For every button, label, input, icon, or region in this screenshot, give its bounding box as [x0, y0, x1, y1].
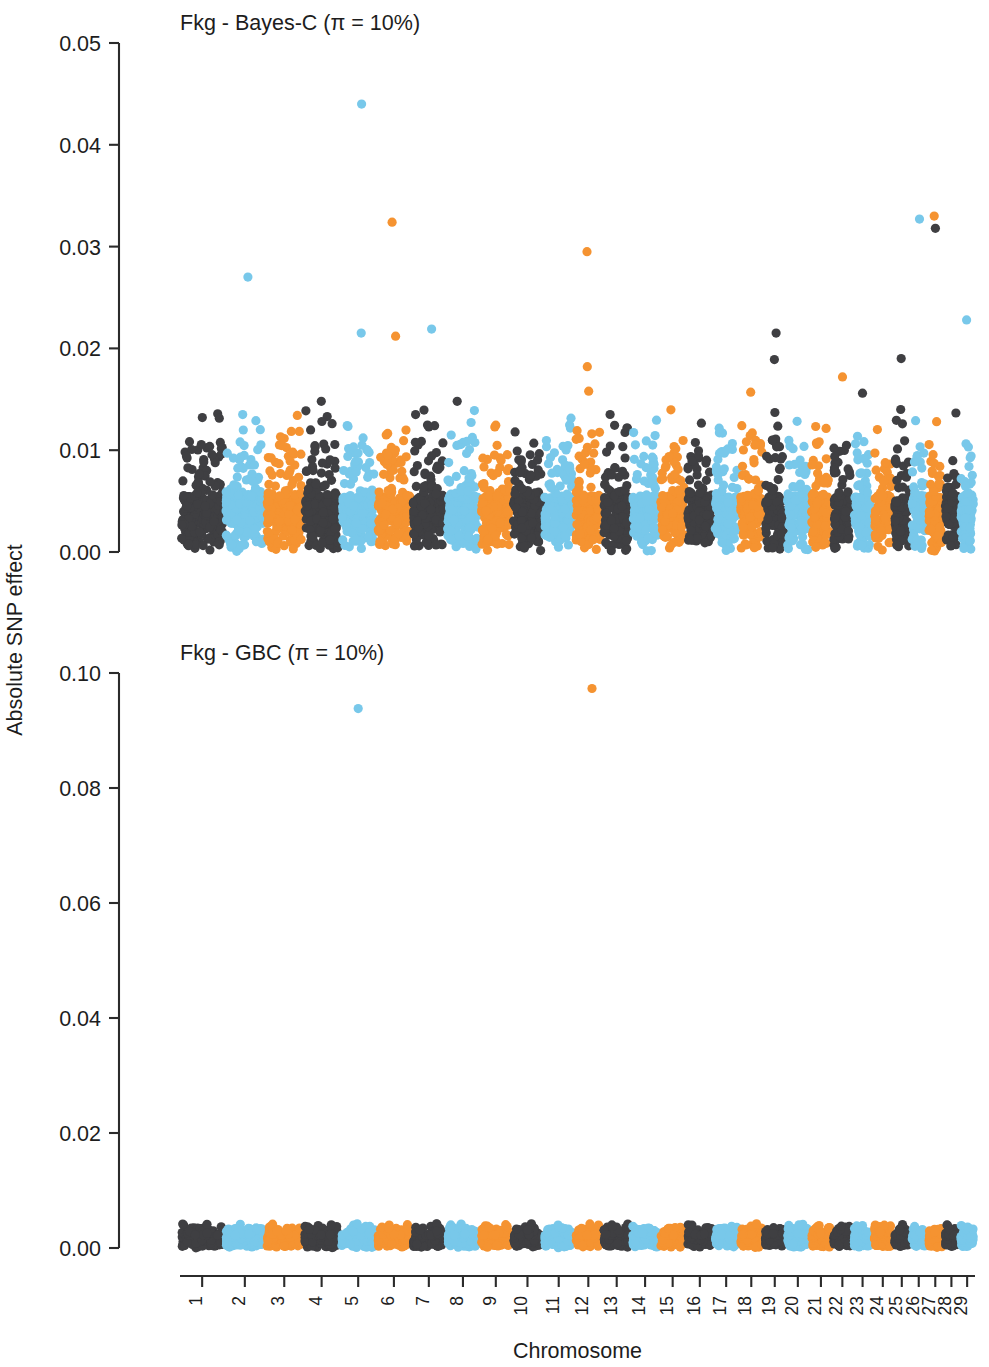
- y-tick-label-gbc-4: 0.08: [59, 777, 101, 801]
- y-tick-label-gbc-0: 0.00: [59, 1237, 101, 1261]
- outlier-point: [243, 273, 252, 282]
- x-tick-label-chr-16: 16: [684, 1296, 704, 1315]
- x-tick-label-chr-18: 18: [735, 1296, 755, 1315]
- panel-title-bayesc: Fkg - Bayes-C (π = 10%): [180, 11, 420, 35]
- outlier-point: [931, 224, 940, 233]
- y-tick-label-bayesc-0: 0.00: [59, 541, 101, 565]
- outlier-point: [353, 1219, 362, 1228]
- x-tick-label-chr-3: 3: [268, 1296, 288, 1306]
- outlier-point: [587, 684, 596, 693]
- y-tick-label-gbc-3: 0.06: [59, 892, 101, 916]
- x-tick-label-chr-15: 15: [657, 1296, 677, 1315]
- outlier-point: [770, 408, 779, 417]
- outlier-point: [427, 325, 436, 334]
- figure-root: Fkg - Bayes-C (π = 10%)0.000.010.020.030…: [0, 0, 989, 1367]
- outlier-point: [772, 329, 781, 338]
- manhattan-figure: Fkg - Bayes-C (π = 10%)0.000.010.020.030…: [0, 0, 989, 1367]
- outlier-point: [357, 100, 366, 109]
- outlier-point: [838, 372, 847, 381]
- y-tick-label-bayesc-5: 0.05: [59, 32, 101, 56]
- outlier-point: [238, 410, 247, 419]
- outlier-point: [357, 329, 366, 338]
- outlier-point: [582, 247, 591, 256]
- points-bayesc: [177, 100, 978, 556]
- points-gbc: [178, 684, 978, 1253]
- y-tick-label-gbc-2: 0.04: [59, 1007, 101, 1031]
- outlier-point: [198, 413, 207, 422]
- x-tick-label-chr-17: 17: [710, 1296, 730, 1315]
- x-tick-label-chr-22: 22: [826, 1296, 846, 1315]
- x-tick-label-chr-14: 14: [629, 1296, 649, 1316]
- outlier-point: [962, 315, 971, 324]
- x-tick-label-chr-24: 24: [867, 1296, 887, 1316]
- y-axis-title: Absolute SNP effect: [3, 544, 27, 736]
- x-tick-label-chr-4: 4: [306, 1296, 326, 1306]
- outlier-point: [858, 389, 867, 398]
- y-tick-label-bayesc-3: 0.03: [59, 236, 101, 260]
- x-tick-label-chr-11: 11: [543, 1296, 563, 1314]
- outlier-point: [746, 388, 755, 397]
- outlier-point: [391, 332, 400, 341]
- outlier-point: [453, 397, 462, 406]
- x-axis-title: Chromosome: [513, 1339, 642, 1363]
- outlier-point: [930, 212, 939, 221]
- outlier-point: [554, 1220, 563, 1229]
- y-tick-label-gbc-5: 0.10: [59, 662, 101, 686]
- y-tick-label-bayesc-2: 0.02: [59, 337, 101, 361]
- x-tick-label-chr-7: 7: [413, 1296, 433, 1306]
- outlier-point: [584, 387, 593, 396]
- y-tick-label-gbc-1: 0.02: [59, 1122, 101, 1146]
- x-tick-label-chr-5: 5: [342, 1296, 362, 1306]
- x-tick-label-chr-10: 10: [511, 1296, 531, 1316]
- x-tick-label-chr-21: 21: [805, 1296, 825, 1315]
- y-tick-label-bayesc-4: 0.04: [59, 134, 101, 158]
- x-tick-label-chr-29: 29: [951, 1296, 971, 1315]
- outlier-point: [915, 215, 924, 224]
- x-tick-label-chr-23: 23: [847, 1296, 867, 1315]
- outlier-point: [897, 354, 906, 363]
- x-tick-label-chr-20: 20: [782, 1296, 802, 1316]
- outlier-point: [388, 218, 397, 227]
- x-tick-label-chr-2: 2: [229, 1296, 249, 1306]
- outlier-point: [932, 417, 941, 426]
- outlier-point: [837, 1222, 846, 1231]
- x-tick-label-chr-12: 12: [572, 1296, 592, 1315]
- x-tick-label-chr-9: 9: [480, 1296, 500, 1306]
- x-tick-label-chr-13: 13: [601, 1296, 621, 1315]
- outlier-point: [317, 397, 326, 406]
- y-tick-label-bayesc-1: 0.01: [59, 439, 101, 463]
- x-tick-label-chr-19: 19: [759, 1296, 779, 1315]
- outlier-point: [770, 355, 779, 364]
- x-tick-label-chr-6: 6: [378, 1296, 398, 1306]
- outlier-point: [896, 405, 905, 414]
- outlier-point: [354, 704, 363, 713]
- panel-title-gbc: Fkg - GBC (π = 10%): [180, 641, 384, 665]
- outlier-point: [583, 362, 592, 371]
- x-tick-label-chr-8: 8: [447, 1296, 467, 1306]
- x-tick-label-chr-1: 1: [186, 1296, 206, 1306]
